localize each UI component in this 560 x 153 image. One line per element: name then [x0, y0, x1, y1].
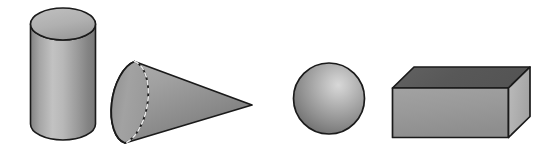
geometric-solids-figure: Three-dimensional geometric solids: [0, 0, 560, 153]
prism-front-face: [393, 88, 509, 138]
sphere-body: [294, 63, 365, 134]
shape-cone: [111, 62, 252, 144]
cylinder-top-face: [31, 8, 96, 40]
solids-svg: Three-dimensional geometric solids: [0, 0, 560, 153]
shape-cylinder: [31, 8, 96, 140]
shape-sphere: [294, 63, 365, 134]
cylinder-lateral-surface: [31, 24, 96, 140]
prism-top-face: [393, 67, 531, 88]
shape-rectangular-prism: [393, 67, 531, 138]
